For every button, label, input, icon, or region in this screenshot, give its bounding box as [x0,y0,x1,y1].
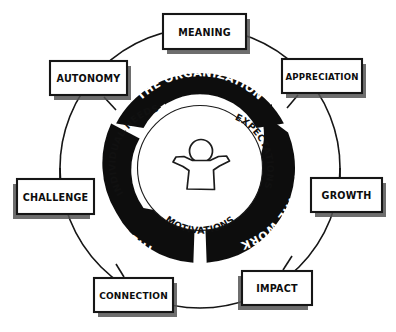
diagram-canvas: THE ORGANIZATION THE WORK THE PEOPLE IND… [0,0,396,332]
leader-line-connection [116,264,124,277]
card-label-autonomy: AUTONOMY [57,73,122,84]
card-challenge[interactable]: CHALLENGE [13,179,94,219]
card-label-connection: CONNECTION [99,291,168,301]
card-connection[interactable]: CONNECTION [94,278,177,317]
card-label-growth: GROWTH [322,190,372,201]
card-label-impact: IMPACT [256,283,298,294]
card-autonomy[interactable]: AUTONOMY [50,61,131,100]
card-label-challenge: CHALLENGE [23,192,89,203]
leader-line-impact [283,256,292,270]
engagement-wheel-diagram: THE ORGANIZATION THE WORK THE PEOPLE IND… [0,0,396,332]
card-impact[interactable]: IMPACT [238,271,312,310]
card-meaning[interactable]: MEANING [163,14,250,54]
card-label-meaning: MEANING [178,27,230,38]
card-label-appreciation: APPRECIATION [285,72,358,82]
card-appreciation[interactable]: APPRECIATION [282,59,366,98]
card-growth[interactable]: GROWTH [311,178,386,217]
